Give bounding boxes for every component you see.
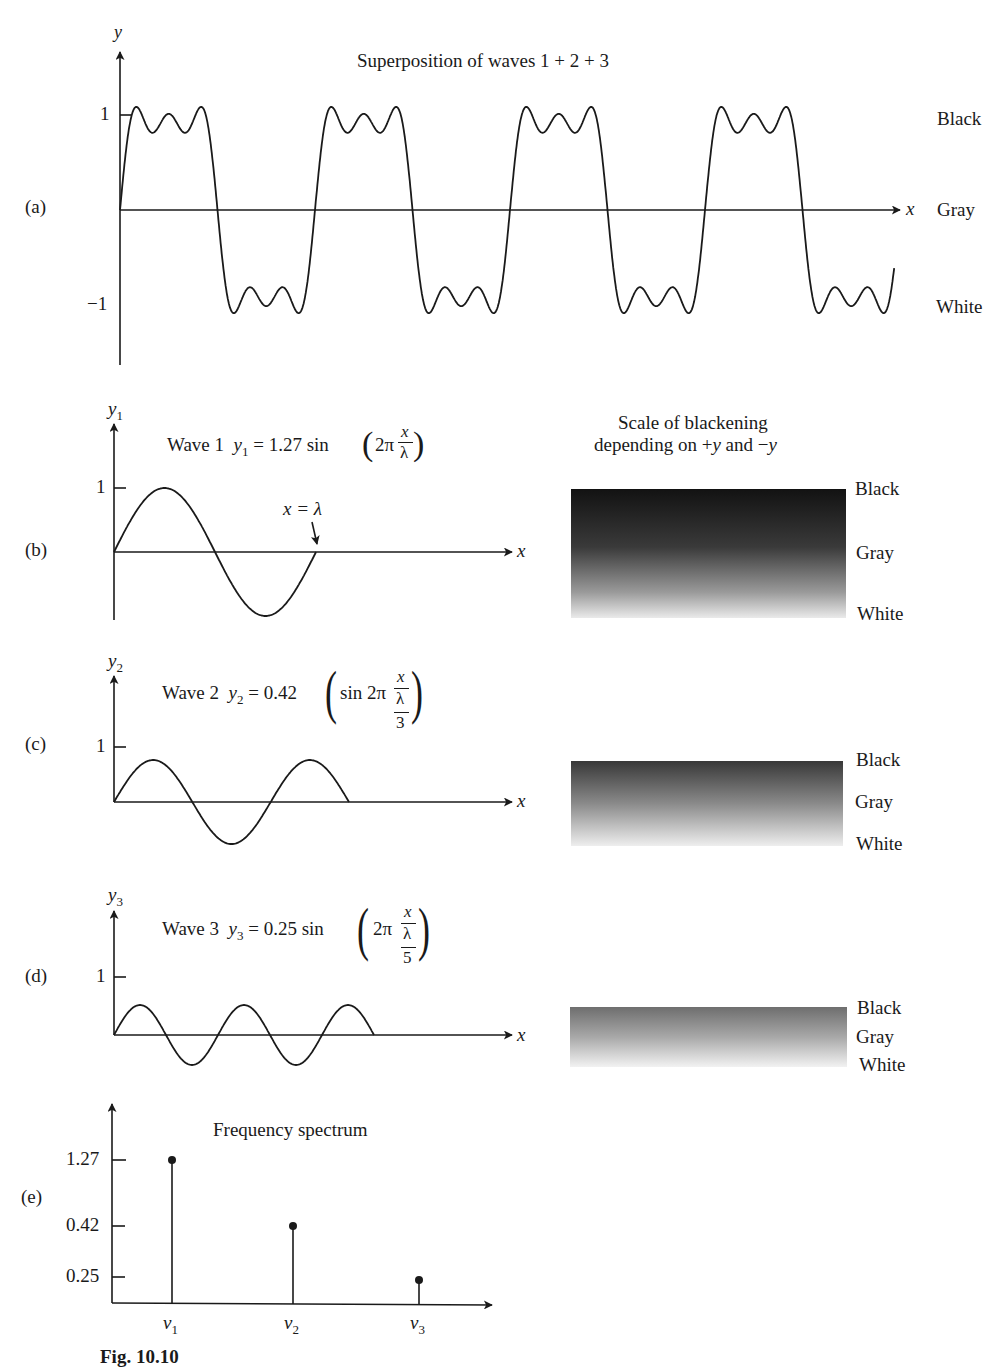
paren-close: ) xyxy=(418,895,430,964)
bar1-label-gray: Gray xyxy=(856,542,894,564)
two-pi: 2π xyxy=(375,434,394,456)
wave1-equation: Wave 1 y1 = 1.27 sin xyxy=(167,434,329,460)
lambda-annotation: x = λ xyxy=(283,498,322,520)
frac-num: x xyxy=(397,667,405,687)
x-axis-label: x xyxy=(517,1024,525,1046)
figure-caption: Fig. 10.10 xyxy=(100,1346,179,1368)
side-label-gray: Gray xyxy=(937,199,975,221)
side-label-white: White xyxy=(936,296,982,318)
panel-d-label: (d) xyxy=(25,965,47,987)
tick-label-1: 1 xyxy=(96,965,106,987)
bar2-label-black: Black xyxy=(856,749,900,771)
bar1-label-black: Black xyxy=(855,478,899,500)
bar2-label-white: White xyxy=(856,833,902,855)
frac-num: x xyxy=(404,902,412,922)
paren-close: ) xyxy=(413,425,424,463)
paren-open: ( xyxy=(362,425,373,463)
wave3-equation: Wave 3 y3 = 0.25 sin xyxy=(162,918,324,944)
tick-label-1: 1 xyxy=(96,735,106,757)
tick-label-0-25: 0.25 xyxy=(66,1265,99,1287)
frac-den: λ xyxy=(396,689,404,709)
paren-open: ( xyxy=(357,895,369,964)
spectrum-dot xyxy=(289,1222,297,1230)
tick-label-0-42: 0.42 xyxy=(66,1214,99,1236)
x-axis-label: x xyxy=(517,540,525,562)
panel-e-label: (e) xyxy=(21,1186,42,1208)
nu3-label: ν3 xyxy=(410,1312,425,1338)
bar3-label-white: White xyxy=(859,1054,905,1076)
bar2-label-gray: Gray xyxy=(855,791,893,813)
sin-two-pi: sin 2π xyxy=(340,682,386,704)
tick-label-1-27: 1.27 xyxy=(66,1148,99,1170)
panel-c-label: (c) xyxy=(25,733,46,755)
frequency-axis xyxy=(112,1303,492,1305)
x-axis-label: x xyxy=(906,198,914,220)
frac-den-2: 3 xyxy=(396,713,405,733)
panel-a-title: Superposition of waves 1 + 2 + 3 xyxy=(357,50,609,72)
blackening-bar-3 xyxy=(570,1007,847,1067)
tick-label-minus-1: −1 xyxy=(87,293,107,315)
blackening-title-line1: Scale of blackening xyxy=(618,412,768,434)
frac-den: λ xyxy=(403,924,411,944)
wave2-equation: Wave 2 y2 = 0.42 xyxy=(162,682,297,708)
y1-axis-label: y1 xyxy=(108,398,123,424)
bar3-label-gray: Gray xyxy=(856,1026,894,1048)
y2-axis-label: y2 xyxy=(108,650,123,676)
y-axis-label: y xyxy=(114,22,122,43)
bar3-label-black: Black xyxy=(857,997,901,1019)
paren-open: ( xyxy=(325,658,337,727)
panel-a-label: (a) xyxy=(25,196,46,218)
blackening-title-line2: depending on +y and −y xyxy=(594,434,777,456)
two-pi: 2π xyxy=(373,918,392,940)
tick-label-1: 1 xyxy=(96,476,106,498)
spectrum-dot xyxy=(415,1276,423,1284)
panel-a xyxy=(120,52,900,365)
frac-den: λ xyxy=(400,443,408,463)
lambda-pointer-arrow xyxy=(312,522,317,544)
nu2-label: ν2 xyxy=(284,1312,299,1338)
y3-axis-label: y3 xyxy=(108,884,123,910)
x-axis-label: x xyxy=(517,790,525,812)
spectrum-dot xyxy=(168,1156,176,1164)
bar1-label-white: White xyxy=(857,603,903,625)
nu1-label: ν1 xyxy=(163,1312,178,1338)
spectrum-stems xyxy=(168,1156,423,1304)
panel-e-title: Frequency spectrum xyxy=(213,1119,368,1141)
frac-den-2: 5 xyxy=(403,948,412,968)
side-label-black: Black xyxy=(937,108,981,130)
paren-close: ) xyxy=(411,658,423,727)
blackening-bar-2 xyxy=(571,761,843,846)
tick-label-1: 1 xyxy=(100,103,110,125)
panel-b-label: (b) xyxy=(25,539,47,561)
blackening-bar-1 xyxy=(571,489,846,618)
frac-num: x xyxy=(401,422,409,442)
